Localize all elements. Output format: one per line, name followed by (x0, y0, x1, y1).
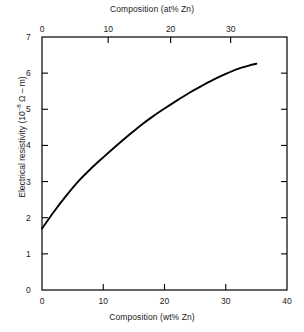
y-tick-label: 0 (26, 285, 31, 295)
x-tick-label: 30 (221, 296, 230, 306)
y-tick-label: 5 (26, 104, 31, 114)
x-tick-label: 0 (40, 296, 45, 306)
secondary-x-tick-label: 20 (166, 24, 175, 34)
y-tick-label: 6 (26, 68, 31, 78)
secondary-x-axis-ticks (108, 37, 230, 43)
secondary-x-tick-label: 0 (40, 24, 45, 34)
secondary-x-tick-label: 10 (103, 24, 112, 34)
y-tick-label: 3 (26, 177, 31, 187)
y-tick-label: 1 (26, 249, 31, 259)
y-tick-label: 2 (26, 213, 31, 223)
x-tick-label: 10 (99, 296, 108, 306)
x-axis-ticks (103, 284, 226, 290)
data-curve (42, 64, 256, 229)
secondary-x-tick-label: 30 (226, 24, 235, 34)
right-axis-ticks (281, 73, 287, 254)
plot-area (0, 0, 304, 332)
y-tick-label: 7 (26, 32, 31, 42)
y-tick-label: 4 (26, 140, 31, 150)
x-tick-label: 20 (160, 296, 169, 306)
x-tick-label: 40 (282, 296, 291, 306)
plot-frame (42, 37, 287, 290)
chart-figure: Composition (at% Zn) Composition (wt% Zn… (0, 0, 304, 332)
